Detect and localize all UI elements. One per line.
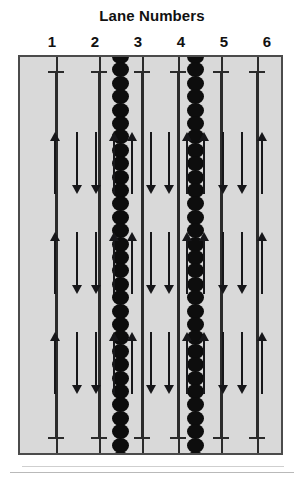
flow-arrow-down-r3-lane-4-down-a (145, 332, 158, 394)
arrow-shaft (76, 132, 78, 187)
arrow-shaft (54, 139, 56, 194)
arrow-head (109, 332, 119, 341)
footer-rule-upper (22, 466, 284, 467)
bead-marker (187, 424, 204, 439)
arrow-head (50, 332, 60, 341)
flow-arrow-down-r1-lane-2-down-a (70, 132, 83, 194)
flow-arrow-up-r3-lane-3-up-b (125, 332, 138, 394)
arrow-shaft (203, 339, 205, 394)
arrow-shaft (203, 239, 205, 294)
flow-arrow-down-r3-lane-6-down-b (236, 332, 249, 394)
arrow-shaft (54, 239, 56, 294)
arrow-shaft (131, 239, 133, 294)
flow-arrow-down-r1-lane-4-down-b (163, 132, 176, 194)
flow-arrow-down-r1-lane-6-down-a (217, 132, 230, 194)
arrow-shaft (222, 132, 224, 187)
arrow-head (91, 385, 101, 394)
arrow-head (127, 332, 137, 341)
flow-arrow-up-r3-lane-5-up-b (198, 332, 211, 394)
arrow-head (109, 132, 119, 141)
flow-arrow-up-r1-lane-5-up-b (198, 132, 211, 194)
flow-arrow-up-r1-lane-1-up (49, 132, 62, 194)
bead-marker (112, 89, 129, 104)
lane-line-cap (91, 437, 107, 439)
arrow-head (218, 185, 228, 194)
arrow-shaft (186, 239, 188, 294)
arrow-head (182, 232, 192, 241)
flow-arrow-up-r2-lane-5-up-a (181, 232, 194, 294)
bead-marker (187, 451, 204, 455)
flow-arrow-up-r3-lane-5-up-a (181, 332, 194, 394)
flow-arrow-down-r2-lane-4-down-a (145, 232, 158, 294)
flow-arrow-up-r2-lane-6-up (255, 232, 268, 294)
flow-arrow-up-r3-lane-6-up (255, 332, 268, 394)
lane-number-2: 2 (85, 33, 105, 50)
bead-marker (187, 89, 204, 104)
arrow-shaft (168, 332, 170, 387)
lane-line-cap (249, 437, 265, 439)
lane-diagram-panel (18, 55, 283, 455)
flow-arrow-down-r3-lane-2-down-b (89, 332, 102, 394)
arrow-shaft (95, 132, 97, 187)
flow-arrow-down-r1-lane-6-down-b (236, 132, 249, 194)
lane-line-cap (48, 437, 64, 439)
flow-arrow-down-r2-lane-6-down-b (236, 232, 249, 294)
lane-number-6: 6 (257, 33, 277, 50)
lane-line-cap (48, 71, 64, 73)
flow-arrow-up-r1-lane-3-up-b (125, 132, 138, 194)
bead-marker (112, 424, 129, 439)
arrow-shaft (113, 139, 115, 194)
arrow-head (91, 285, 101, 294)
lane-line-stem (177, 71, 179, 439)
arrow-shaft (54, 339, 56, 394)
lane-line-cap (91, 71, 107, 73)
arrow-shaft (186, 139, 188, 194)
arrow-head (72, 385, 82, 394)
arrow-shaft (95, 332, 97, 387)
arrow-head (199, 332, 209, 341)
arrow-head (182, 132, 192, 141)
flow-arrow-down-r3-lane-6-down-a (217, 332, 230, 394)
flow-arrow-down-r2-lane-6-down-a (217, 232, 230, 294)
arrow-head (164, 185, 174, 194)
arrow-shaft (261, 139, 263, 194)
arrow-head (50, 132, 60, 141)
flow-arrow-down-r2-lane-2-down-b (89, 232, 102, 294)
lane-line-cap (170, 71, 186, 73)
flow-arrow-up-r1-lane-5-up-a (181, 132, 194, 194)
figure-title: Lane Numbers (0, 7, 304, 24)
lane-diagram-content (20, 57, 281, 453)
arrow-shaft (95, 232, 97, 287)
arrow-shaft (261, 239, 263, 294)
arrow-shaft (222, 332, 224, 387)
lane-number-5: 5 (214, 33, 234, 50)
arrow-head (218, 285, 228, 294)
lane-line-cap (249, 71, 265, 73)
flow-arrow-up-r3-lane-3-up-a (107, 332, 120, 394)
arrow-shaft (241, 332, 243, 387)
arrow-head (146, 185, 156, 194)
arrow-shaft (203, 139, 205, 194)
arrow-head (127, 232, 137, 241)
flow-arrow-up-r3-lane-1-up (49, 332, 62, 394)
arrow-head (237, 185, 247, 194)
arrow-head (182, 332, 192, 341)
arrow-shaft (76, 332, 78, 387)
flow-arrow-up-r1-lane-6-up (255, 132, 268, 194)
arrow-head (50, 232, 60, 241)
arrow-shaft (150, 232, 152, 287)
figure-canvas: Lane Numbers 123456 (0, 0, 304, 481)
flow-arrow-down-r2-lane-4-down-b (163, 232, 176, 294)
arrow-shaft (241, 132, 243, 187)
arrow-shaft (113, 239, 115, 294)
flow-arrow-up-r2-lane-5-up-b (198, 232, 211, 294)
lane-line-cap (134, 437, 150, 439)
arrow-shaft (168, 132, 170, 187)
arrow-shaft (113, 339, 115, 394)
lane-line-cap (213, 437, 229, 439)
arrow-shaft (131, 339, 133, 394)
arrow-shaft (131, 139, 133, 194)
arrow-head (237, 385, 247, 394)
flow-arrow-up-r2-lane-1-up (49, 232, 62, 294)
lane-line-cap (170, 437, 186, 439)
